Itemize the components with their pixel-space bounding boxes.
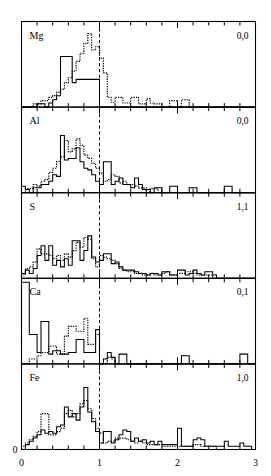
panel-code-label: 0,0 (237, 31, 249, 41)
x-axis-tick-label: 0 (19, 457, 24, 468)
histogram-solid (22, 57, 256, 108)
x-axis: 0123 (19, 457, 258, 468)
panel-element-label: Mg (30, 30, 44, 41)
x-axis-tick-label: 3 (253, 457, 258, 468)
histogram-solid (22, 387, 256, 449)
panel-frame (22, 22, 256, 108)
panel-fe: Fe1,0 (22, 364, 256, 450)
histogram-solid (22, 236, 256, 278)
panel-al: Al0,0 (22, 107, 256, 193)
panel-code-label: 1,0 (237, 373, 249, 383)
panel-code-label: 0,1 (237, 287, 249, 297)
panel-code-label: 0,0 (237, 116, 249, 126)
panel-frame (22, 364, 256, 450)
y-axis-zero-label: 0 (13, 444, 18, 455)
panel-element-label: Al (30, 115, 40, 126)
panel-code-label: 1,1 (237, 202, 249, 212)
panel-element-label: Ca (30, 286, 42, 297)
panel-element-label: Fe (30, 372, 41, 383)
histogram-dotted (22, 318, 256, 364)
panel-element-label: S (30, 201, 36, 212)
panel-ca: Ca0,1 (22, 278, 256, 364)
panel-mg: Mg0,0 (22, 22, 256, 108)
histogram-dotted (22, 401, 256, 450)
panel-s: S1,1 (22, 193, 256, 279)
x-axis-tick-label: 1 (97, 457, 102, 468)
histogram-solid (22, 282, 256, 364)
x-axis-tick-label: 2 (175, 457, 180, 468)
histogram-figure: Mg0,0Al0,0S1,1Ca0,1Fe1,001230 (0, 0, 271, 476)
figure-canvas: Mg0,0Al0,0S1,1Ca0,1Fe1,001230 (0, 0, 271, 476)
